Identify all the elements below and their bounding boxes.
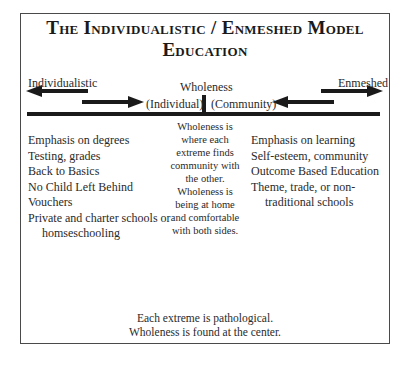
center-line: extreme finds <box>150 146 260 159</box>
list-item: traditional schools <box>251 195 379 211</box>
center-line: Wholeness is <box>150 120 260 133</box>
center-line: with both sides. <box>150 224 260 237</box>
right-column-list: Emphasis on learning Self-esteem, commun… <box>251 133 379 211</box>
list-item: Self-esteem, community <box>251 149 379 165</box>
list-item: Emphasis on learning <box>251 133 379 149</box>
right-pole-label: Enmeshed <box>338 76 388 90</box>
center-label: Wholeness <box>180 80 233 94</box>
center-left-label: (Individual) <box>146 97 203 111</box>
list-item: Outcome Based Education <box>251 164 379 180</box>
center-line: community with <box>150 159 260 172</box>
footer-line-1: Each extreme is pathological. <box>20 311 390 325</box>
arrow-right-inward-icon <box>272 96 334 108</box>
center-line: being at home <box>150 198 260 211</box>
footer-line-2: Wholeness is found at the center. <box>20 325 390 339</box>
center-right-label: (Community) <box>211 97 276 111</box>
center-line: where each <box>150 133 260 146</box>
center-line: the other. <box>150 172 260 185</box>
center-line: and comfortable <box>150 211 260 224</box>
center-column-text: Wholeness is where each extreme finds co… <box>150 120 260 237</box>
left-pole-label: Individualistic <box>28 76 97 90</box>
arrow-left-inward-icon <box>82 96 144 108</box>
center-line: Wholeness is <box>150 185 260 198</box>
list-item: Theme, trade, or non- <box>251 180 379 196</box>
diagram-footer: Each extreme is pathological. Wholeness … <box>20 311 390 339</box>
